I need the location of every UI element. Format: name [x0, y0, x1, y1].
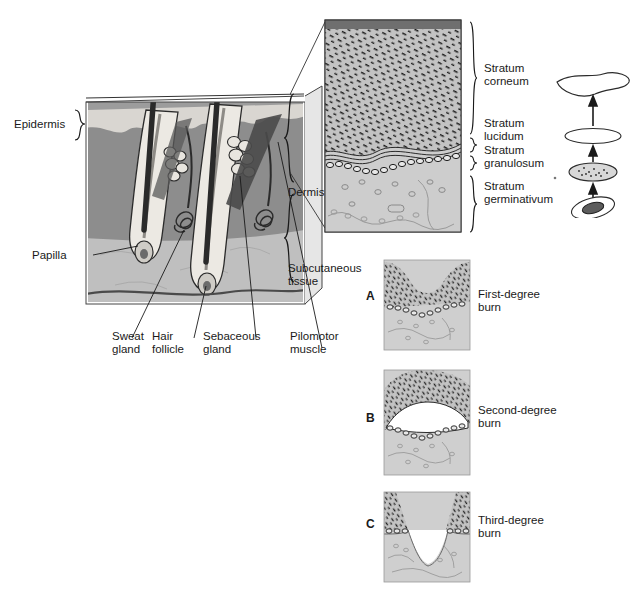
label-subcutaneous-line2: tissue — [288, 275, 318, 289]
arrow-up-3 — [589, 184, 597, 198]
burn-label-c-line1: Third-degree — [478, 514, 544, 528]
epidermis-brace — [72, 108, 94, 144]
label-sweat-gland-line2: gland — [112, 343, 140, 357]
skin-block-body — [86, 80, 305, 304]
strata-braces — [470, 22, 477, 232]
label-subcutaneous-line1: Subcutaneous — [288, 262, 362, 276]
germinativum-brace — [470, 176, 477, 232]
label-pilomotor-muscle-line2: muscle — [290, 343, 326, 357]
arrow-up-2 — [589, 146, 597, 162]
label-epidermis: Epidermis — [14, 118, 65, 132]
label-sebaceous-gland-line1: Sebaceous — [203, 330, 261, 344]
burn-label-c-line2: burn — [478, 527, 501, 541]
epidermis-detail-panel — [325, 20, 461, 232]
label-stratum-corneum-line2: corneum — [484, 75, 529, 89]
label-stratum-germinativum-line2: germinativum — [484, 193, 553, 207]
stratum-corneum-region — [325, 28, 461, 156]
label-papilla: Papilla — [32, 249, 67, 263]
label-sweat-gland-line1: Sweat — [112, 330, 144, 344]
burn-label-b-line2: burn — [478, 417, 501, 431]
burn-label-a-line2: burn — [478, 301, 501, 315]
burn-figure-b — [382, 368, 492, 483]
label-hair-follicle-line2: follicle — [152, 343, 184, 357]
label-stratum-granulosum-line2: granulosum — [484, 157, 544, 171]
cell-squame — [557, 73, 629, 96]
burn-letter-c: C — [366, 518, 375, 532]
burn-letter-b: B — [366, 412, 375, 426]
lucidum-brace — [470, 138, 477, 152]
label-pilomotor-muscle-line1: Pilomotor — [290, 330, 339, 344]
label-stratum-lucidum-line2: lucidum — [484, 130, 524, 144]
cell-clear — [565, 129, 621, 144]
magnifier-connector-lines — [290, 22, 325, 228]
label-stratum-germinativum-line1: Stratum — [484, 180, 524, 194]
label-hair-follicle-line1: Hair — [152, 330, 173, 344]
label-stratum-lucidum-line1: Stratum — [484, 117, 524, 131]
keratinocyte-maturation-figure — [545, 58, 637, 218]
corneum-brace — [470, 22, 477, 134]
granulosum-brace — [470, 156, 477, 170]
burn-letter-a: A — [366, 290, 375, 304]
burn-label-a-line1: First-degree — [478, 288, 540, 302]
burn-label-b-line1: Second-degree — [478, 404, 557, 418]
cell-granular — [569, 163, 617, 181]
label-stratum-corneum-line1: Stratum — [484, 62, 524, 76]
label-stratum-granulosum-line1: Stratum — [484, 144, 524, 158]
arrow-up-1 — [589, 96, 597, 126]
epidermis-detail-figure — [290, 12, 500, 252]
burn-figure-c — [382, 490, 492, 590]
stray-dot — [554, 177, 557, 180]
label-sebaceous-gland-line2: gland — [203, 343, 231, 357]
burn-figure-a — [382, 258, 492, 358]
